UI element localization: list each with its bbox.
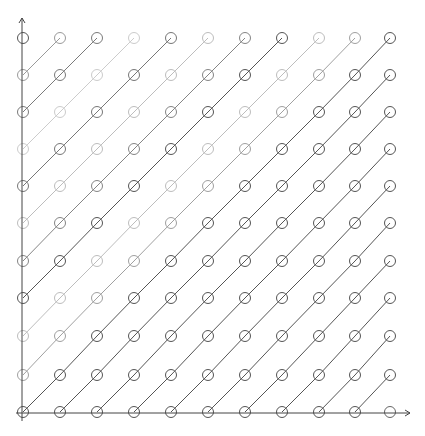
diagonal-segment	[245, 298, 282, 336]
diagonal-segment	[60, 186, 97, 223]
diagonal-segment	[23, 336, 60, 375]
diagonal-lines	[23, 38, 390, 412]
diagonal-segment	[60, 336, 97, 375]
diagonal-segment	[97, 186, 134, 223]
diagonal-segment	[97, 112, 134, 149]
diagonal-segment	[282, 223, 319, 261]
diagonal-segment	[208, 186, 245, 223]
diagonal-segment	[208, 38, 245, 75]
diagonal-segment	[171, 375, 208, 412]
diagonal-segment	[171, 75, 208, 112]
diagonal-segment	[134, 149, 171, 186]
diagonal-segment	[282, 375, 319, 412]
diagonal-segment	[97, 261, 134, 298]
diagonal-segment	[355, 298, 390, 336]
diagonal-segment	[23, 298, 60, 336]
diagonal-segment	[23, 261, 60, 298]
diagonal-segment	[355, 336, 390, 375]
diagonal-segment	[171, 112, 208, 149]
diagonal-segment	[23, 186, 60, 223]
diagonal-segment	[171, 261, 208, 298]
diagonal-segment	[60, 375, 97, 412]
diagonal-segment	[134, 186, 171, 223]
diagonal-segment	[282, 75, 319, 112]
diagonal-segment	[355, 38, 390, 75]
diagonal-segment	[60, 38, 97, 75]
diagonal-segment	[208, 223, 245, 261]
diagonal-segment	[319, 298, 355, 336]
diagonal-segment	[134, 336, 171, 375]
diagonal-segment	[245, 112, 282, 149]
diagonal-segment	[355, 186, 390, 223]
diagonal-segment	[171, 38, 208, 75]
diagonal-segment	[134, 112, 171, 149]
diagonal-segment	[171, 149, 208, 186]
diagonal-segment	[60, 261, 97, 298]
diagonal-segment	[245, 375, 282, 412]
diagonal-segment	[171, 336, 208, 375]
diagonal-segment	[97, 336, 134, 375]
diagonal-segment	[355, 375, 390, 412]
diagonal-segment	[245, 149, 282, 186]
diagonal-segment	[60, 223, 97, 261]
diagonal-segment	[134, 38, 171, 75]
diagonal-segment	[319, 261, 355, 298]
diagonal-segment	[171, 223, 208, 261]
diagonal-segment	[208, 375, 245, 412]
diagonal-segment	[245, 261, 282, 298]
diagonal-segment	[282, 298, 319, 336]
diagonal-segment	[208, 336, 245, 375]
diagonal-segment	[208, 298, 245, 336]
diagonal-segment	[355, 75, 390, 112]
lattice-point-circle	[385, 407, 396, 418]
diagonal-segment	[97, 298, 134, 336]
diagonal-segment	[355, 112, 390, 149]
diagonal-segment	[282, 261, 319, 298]
diagonal-segment	[282, 149, 319, 186]
diagonal-segment	[23, 223, 60, 261]
diagonal-segment	[319, 223, 355, 261]
diagonal-segment	[355, 261, 390, 298]
diagonal-segment	[97, 75, 134, 112]
diagonal-segment	[245, 38, 282, 75]
diagonal-segment	[319, 375, 355, 412]
diagonal-segment	[97, 149, 134, 186]
diagonal-segment	[134, 375, 171, 412]
diagonal-segment	[171, 186, 208, 223]
diagonal-segment	[245, 336, 282, 375]
diagonal-segment	[60, 112, 97, 149]
diagonal-segment	[60, 149, 97, 186]
diagonal-segment	[355, 223, 390, 261]
diagonal-segment	[245, 75, 282, 112]
diagonal-segment	[208, 112, 245, 149]
diagonal-segment	[319, 336, 355, 375]
diagonal-segment	[355, 149, 390, 186]
diagonal-segment	[245, 186, 282, 223]
diagonal-segment	[23, 112, 60, 149]
diagonal-segment	[282, 112, 319, 149]
diagonal-segment	[319, 75, 355, 112]
diagonal-segment	[23, 75, 60, 112]
diagonal-segment	[97, 38, 134, 75]
diagonal-segment	[97, 375, 134, 412]
diagonal-segment	[23, 149, 60, 186]
diagonal-segment	[97, 223, 134, 261]
diagonal-segment	[282, 186, 319, 223]
diagonal-segment	[134, 223, 171, 261]
diagonal-segment	[60, 75, 97, 112]
diagonal-segment	[60, 298, 97, 336]
diagonal-segment	[208, 149, 245, 186]
diagonal-segment	[208, 75, 245, 112]
diagonal-segment	[319, 186, 355, 223]
diagonal-segment	[23, 375, 60, 412]
lattice-point-circle	[18, 33, 29, 44]
lattice-diagram	[0, 0, 425, 436]
diagonal-segment	[319, 112, 355, 149]
diagonal-segment	[282, 336, 319, 375]
diagonal-segment	[134, 75, 171, 112]
diagonal-segment	[171, 298, 208, 336]
diagonal-segment	[23, 38, 60, 75]
diagonal-segment	[319, 38, 355, 75]
diagonal-segment	[208, 261, 245, 298]
diagonal-segment	[134, 298, 171, 336]
